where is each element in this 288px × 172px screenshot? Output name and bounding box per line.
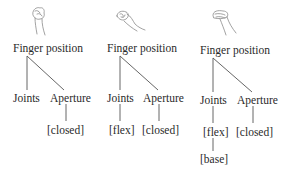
node-aperture: Aperture: [50, 92, 91, 104]
node-joints: Joints: [107, 92, 134, 104]
node-aperture-closed: [closed]: [47, 124, 84, 136]
node-aperture: Aperture: [143, 92, 184, 104]
node-joints-flex: [flex]: [109, 124, 135, 136]
feature-tree-2: Finger position Joints Aperture [flex] […: [95, 0, 191, 172]
feature-tree-1: Finger position Joints Aperture [closed]: [0, 0, 96, 172]
tree-edges: [95, 0, 191, 172]
feature-tree-3: Finger position Joints Aperture [flex] […: [188, 0, 284, 172]
tree-edges: [0, 0, 96, 172]
node-joints: Joints: [13, 92, 40, 104]
node-aperture-closed: [closed]: [142, 124, 179, 136]
node-joints-base: [base]: [200, 153, 228, 165]
node-joints: Joints: [200, 94, 227, 106]
edge-root-aperture: [120, 56, 158, 90]
node-aperture: Aperture: [237, 94, 278, 106]
edge-root-aperture: [27, 56, 64, 90]
tree-edges: [188, 0, 284, 172]
edge-root-aperture: [213, 58, 252, 92]
node-joints-flex: [flex]: [203, 126, 229, 138]
node-aperture-closed: [closed]: [236, 126, 273, 138]
